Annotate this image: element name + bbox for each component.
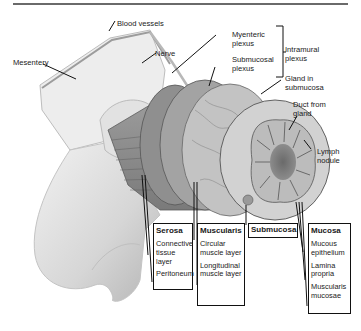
mucosa-item-epithelium: Mucous epithelium — [311, 240, 348, 258]
label-intramural-plexus: Intramural plexus — [285, 45, 331, 63]
box-submucosa: Submucosa — [248, 223, 298, 238]
box-title-muscularis: Muscularis — [200, 226, 242, 236]
muscularis-item-longitudinal: Longitudinal muscle layer — [200, 262, 242, 280]
box-title-submucosa: Submucosa — [251, 225, 295, 235]
label-blood-vessels: Blood vessels — [117, 19, 164, 28]
muscularis-item-circular: Circular muscle layer — [200, 240, 242, 258]
label-myenteric-plexus: Myenteric plexus — [232, 30, 272, 48]
label-gland-in-submucosa: Gland in submucosa — [285, 74, 333, 92]
box-mucosa: Mucosa Mucous epithelium Lamina propria … — [308, 223, 351, 314]
box-muscularis: Muscularis Circular muscle layer Longitu… — [197, 223, 245, 306]
mucosa-item-lamina-propria: Lamina propria — [311, 262, 348, 280]
box-title-mucosa: Mucosa — [311, 226, 348, 236]
label-duct-from-gland: Duct from gland — [293, 100, 331, 118]
mucosa-item-muscularis-mucosae: Muscularis mucosae — [311, 283, 348, 301]
box-title-serosa: Serosa — [156, 226, 190, 236]
serosa-item-peritoneum: Peritoneum — [156, 270, 190, 279]
box-serosa: Serosa Connective tissue layer Peritoneu… — [153, 223, 193, 290]
serosa-item-connective: Connective tissue layer — [156, 240, 190, 266]
label-lymph-nodule: Lymph nodule — [317, 147, 351, 165]
label-submucosal-plexus: Submucosal plexus — [232, 55, 276, 73]
label-mesentery: Mesentery — [13, 58, 48, 67]
label-nerve: Nerve — [155, 49, 175, 58]
